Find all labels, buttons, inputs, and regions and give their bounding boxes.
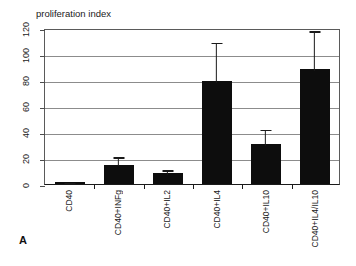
y-axis-tick-label: 80 bbox=[22, 68, 31, 94]
error-bar-cap bbox=[162, 170, 173, 171]
y-axis-tick-label: 120 bbox=[22, 16, 31, 42]
x-axis-category-label: CD40+INFg bbox=[113, 190, 122, 235]
x-axis-tick bbox=[144, 184, 145, 189]
y-axis-tick bbox=[40, 186, 45, 187]
error-bar-stem bbox=[216, 43, 217, 83]
x-axis-category-labels: CD40CD40+INFgCD40+IL2CD40+IL4CD40+IL10CD… bbox=[44, 190, 340, 260]
x-axis-label-slot: CD40+IL4/IL10 bbox=[291, 190, 340, 260]
bar-group bbox=[290, 30, 339, 184]
x-axis-category-label: CD40+IL4/IL10 bbox=[311, 190, 320, 247]
y-axis-tick-label: 100 bbox=[22, 42, 31, 68]
x-axis-tick bbox=[94, 184, 95, 189]
error-bar bbox=[64, 183, 75, 184]
error-bar-cap bbox=[64, 183, 75, 184]
bar-group bbox=[241, 30, 290, 184]
bar-group bbox=[143, 30, 192, 184]
x-axis-category-label: CD40+IL10 bbox=[261, 190, 270, 233]
bar bbox=[104, 165, 134, 185]
error-bar-cap bbox=[211, 43, 222, 44]
bar-group bbox=[192, 30, 241, 184]
error-bar bbox=[113, 157, 124, 166]
figure-panel-a: proliferation index 020406080100120 CD40… bbox=[0, 0, 356, 266]
error-bar-cap bbox=[309, 31, 320, 32]
error-bar-cap bbox=[113, 157, 124, 158]
bar-group bbox=[94, 30, 143, 184]
error-bar bbox=[309, 31, 320, 71]
plot-area bbox=[44, 29, 340, 185]
x-axis-tick bbox=[292, 184, 293, 189]
y-axis-tick-label: 20 bbox=[22, 146, 31, 172]
x-axis-label-slot: CD40+INFg bbox=[93, 190, 142, 260]
bar bbox=[300, 69, 330, 184]
x-axis-category-label: CD40+IL4 bbox=[212, 190, 221, 229]
y-axis-tick-label: 0 bbox=[22, 172, 31, 198]
error-bar-cap bbox=[260, 130, 271, 131]
x-axis-label-slot: CD40+IL4 bbox=[192, 190, 241, 260]
x-axis-tick bbox=[193, 184, 194, 189]
bar bbox=[251, 144, 281, 184]
x-axis-label-slot: CD40+IL2 bbox=[143, 190, 192, 260]
bar bbox=[202, 81, 232, 184]
error-bar bbox=[260, 130, 271, 146]
x-axis-label-slot: CD40+IL10 bbox=[241, 190, 290, 260]
x-axis-category-label: CD40+IL2 bbox=[163, 190, 172, 229]
y-axis-tick-label: 40 bbox=[22, 120, 31, 146]
x-axis-label-slot: CD40 bbox=[44, 190, 93, 260]
chart-title: proliferation index bbox=[36, 8, 111, 20]
bars-layer bbox=[45, 30, 339, 184]
error-bar bbox=[211, 43, 222, 83]
x-axis-category-label: CD40 bbox=[64, 190, 73, 212]
panel-letter: A bbox=[19, 234, 27, 246]
y-axis-tick-label: 60 bbox=[22, 94, 31, 120]
error-bar-stem bbox=[314, 31, 315, 71]
x-axis-tick bbox=[242, 184, 243, 189]
bar-group bbox=[45, 30, 94, 184]
error-bar-stem bbox=[265, 130, 266, 146]
error-bar bbox=[162, 170, 173, 175]
